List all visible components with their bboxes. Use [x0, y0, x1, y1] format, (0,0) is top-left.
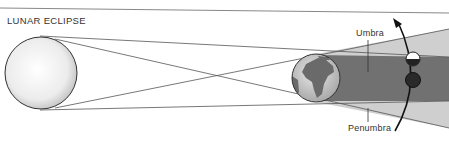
top-border — [0, 8, 449, 13]
moon-partial — [406, 52, 420, 66]
earth — [292, 54, 340, 102]
moon-eclipsed — [406, 73, 421, 88]
sun — [5, 37, 77, 109]
penumbra-label: Penumbra — [348, 123, 391, 133]
diagram-title: LUNAR ECLIPSE — [7, 15, 86, 26]
umbra-label: Umbra — [356, 28, 384, 38]
